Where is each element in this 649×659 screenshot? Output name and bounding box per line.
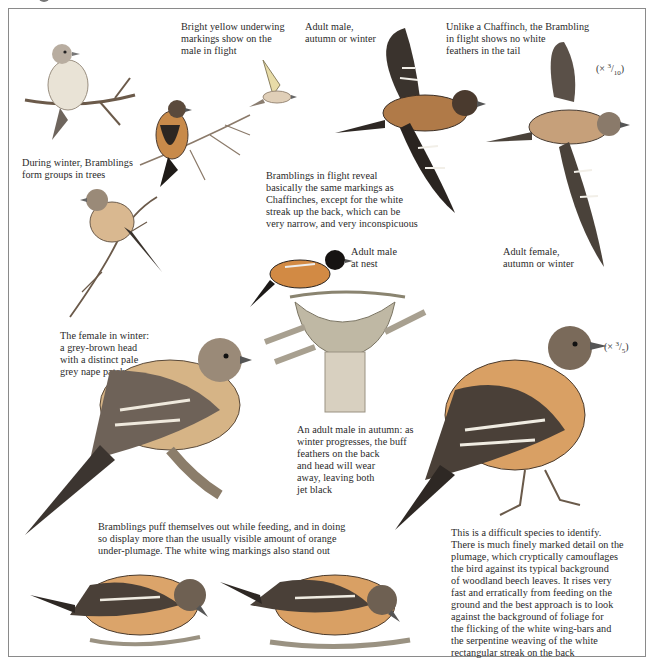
feeding-2-illustration (220, 560, 420, 655)
female-large-illustration (20, 330, 255, 540)
heading-fragment (38, 0, 50, 2)
flying-bird-small-illustration (245, 55, 305, 110)
male-large-illustration (395, 320, 620, 530)
perched-bird-small-2-illustration (130, 95, 260, 195)
perched-bird-small-3-illustration (62, 182, 177, 322)
caption-identification: This is a difficult species to identify.… (451, 527, 624, 659)
flying-male-illustration (330, 28, 490, 218)
caption-yellow-underwing: Bright yellow underwing markings show on… (181, 21, 285, 57)
perched-bird-small-1-illustration (20, 40, 140, 150)
feeding-1-illustration (30, 565, 225, 650)
flying-female-illustration (484, 42, 634, 272)
caption-winter-groups: During winter, Bramblings form groups in… (22, 157, 133, 181)
